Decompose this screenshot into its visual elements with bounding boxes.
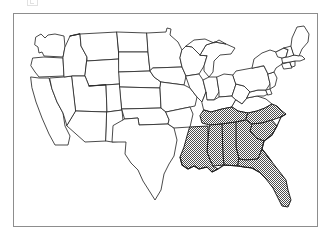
state-new-jersey	[268, 72, 277, 89]
state-alabama	[222, 122, 239, 166]
states-layer-shaded-southeast	[180, 104, 291, 207]
us-map-svg	[14, 14, 317, 226]
state-oregon	[31, 57, 64, 77]
scan-artifact-glyph	[27, 0, 38, 6]
state-north-dakota	[117, 32, 148, 52]
state-washington	[35, 34, 65, 57]
map-frame-border	[13, 13, 318, 227]
state-kansas	[120, 87, 161, 109]
state-wyoming	[85, 59, 120, 86]
state-minnesota	[147, 28, 182, 71]
states-layer-east	[202, 26, 309, 113]
state-arizona	[67, 111, 107, 142]
state-texas	[112, 118, 177, 200]
state-south-dakota	[119, 52, 150, 72]
figure-root	[0, 0, 329, 238]
state-maine	[291, 26, 309, 56]
states-layer-west	[31, 32, 125, 145]
